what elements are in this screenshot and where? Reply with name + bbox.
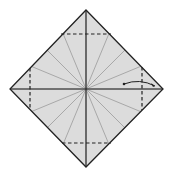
arrow-start-dot xyxy=(123,83,126,86)
origami-diagram xyxy=(0,0,175,179)
